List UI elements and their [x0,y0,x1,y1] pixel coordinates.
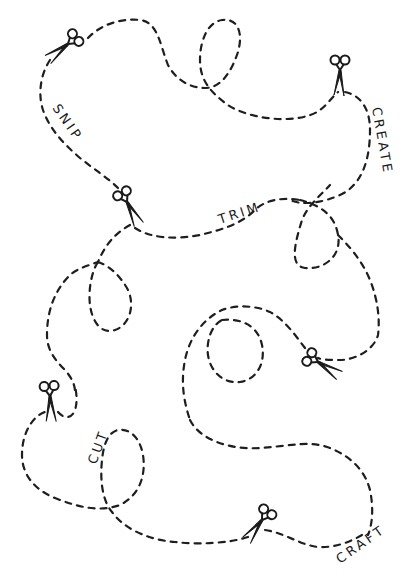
label-create: CREATE [369,106,396,176]
scissor-path-illustration: SNIP CREATE TRIM CUT CRAFT [0,0,404,582]
word-labels: SNIP CREATE TRIM CUT CRAFT [50,101,396,566]
scissors-icon-5 [301,347,346,384]
label-cut: CUT [85,427,111,466]
dashed-cut-lines [22,20,379,547]
label-trim: TRIM [215,199,262,227]
scissors-icon-3 [112,185,149,230]
scissors-icon-4 [39,381,61,423]
scissors-icon-2 [331,56,350,97]
scissors-icon-6 [239,503,278,547]
label-snip: SNIP [50,101,86,144]
label-craft: CRAFT [333,522,388,567]
